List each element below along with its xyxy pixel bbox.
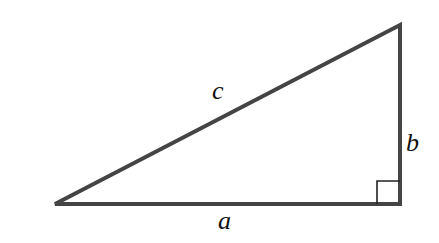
right-triangle: [55, 25, 400, 204]
hypotenuse-label-c: c: [212, 78, 224, 104]
leg-label-a: a: [218, 208, 231, 234]
leg-label-b: b: [406, 130, 419, 156]
right-angle-marker: [377, 181, 400, 204]
